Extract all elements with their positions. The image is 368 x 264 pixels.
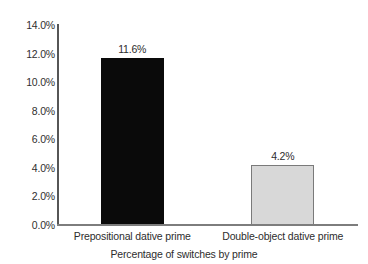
bar-double-object-dative-prime xyxy=(251,165,314,225)
y-tick-label-6: 6.0% xyxy=(0,133,55,145)
bar-prepositional-dative-prime xyxy=(101,58,164,225)
y-tick-label-14: 14.0% xyxy=(0,19,55,31)
category-label-double-object: Double-object dative prime xyxy=(193,230,368,242)
bar-chart: 14.0% 12.0% 10.0% 8.0% 6.0% 4.0% 2.0% 0.… xyxy=(0,0,368,264)
bar-value-label-double-object: 4.2% xyxy=(243,150,323,162)
y-tick-label-8: 8.0% xyxy=(0,105,55,117)
y-tick-label-4: 4.0% xyxy=(0,162,55,174)
y-tick-label-10: 10.0% xyxy=(0,76,55,88)
x-axis-baseline xyxy=(57,224,358,226)
y-axis-line xyxy=(57,24,59,225)
x-axis-title: Percentage of switches by prime xyxy=(0,248,368,260)
y-tick-label-2: 2.0% xyxy=(0,190,55,202)
y-tick-label-12: 12.0% xyxy=(0,48,55,60)
bar-value-label-prepositional: 11.6% xyxy=(92,43,172,55)
